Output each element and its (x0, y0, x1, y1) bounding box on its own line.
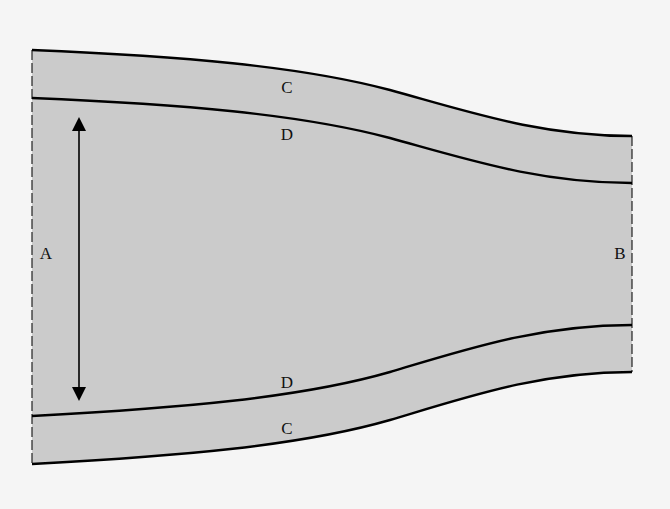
diagram-stage: A B C D D C (0, 0, 670, 509)
label-outlet-B: B (614, 245, 625, 262)
label-inner-wall-bottom-D: D (281, 374, 293, 391)
label-inner-wall-top-D: D (281, 126, 293, 143)
channel-fill (32, 50, 632, 464)
label-outer-wall-bottom-C: C (281, 420, 292, 437)
channel-diagram (0, 0, 670, 509)
label-outer-wall-top-C: C (281, 79, 292, 96)
label-inlet-A: A (40, 245, 52, 262)
